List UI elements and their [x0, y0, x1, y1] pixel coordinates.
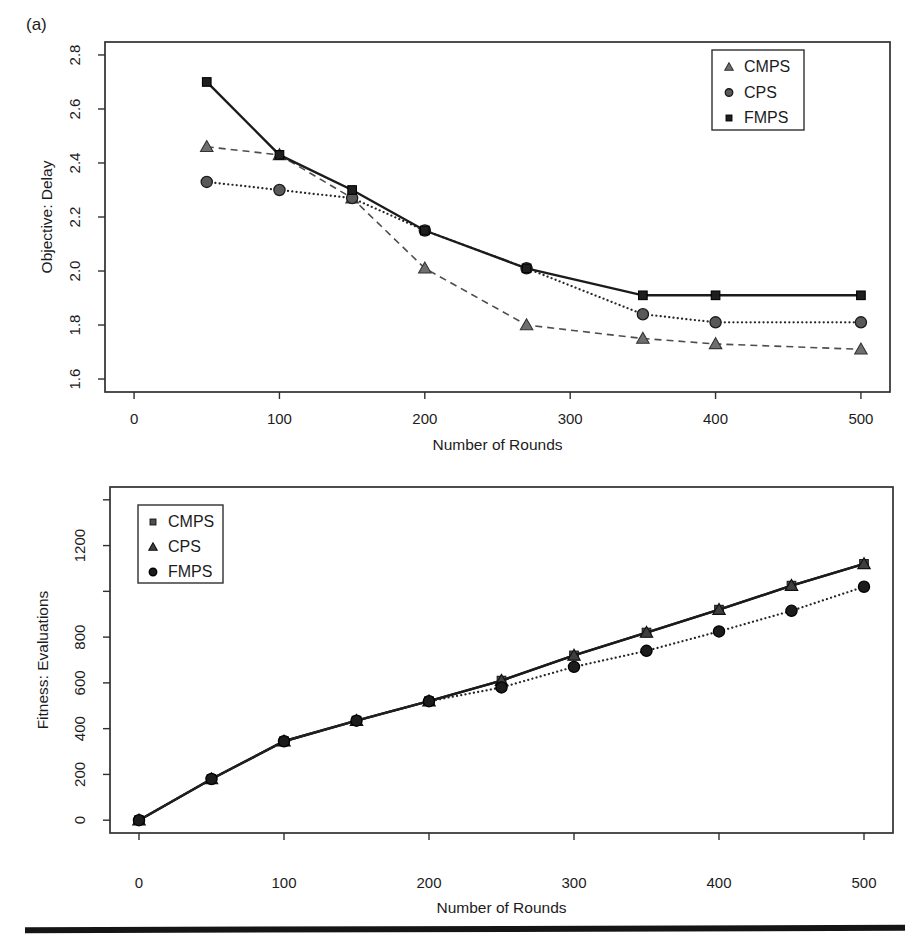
x-tick-label: 400	[703, 410, 728, 427]
x-tick-label: 0	[135, 874, 143, 891]
x-axis-title: Number of Rounds	[432, 436, 562, 453]
legend: CMPSCPSFMPS	[138, 505, 223, 583]
legend: CMPSCPSFMPS	[712, 50, 804, 130]
y-tick-label: 600	[71, 670, 88, 695]
x-tick-label: 100	[267, 410, 292, 427]
x-axis-title: Number of Rounds	[436, 899, 566, 916]
y-tick-label: 2.2	[66, 207, 83, 228]
y-tick-label: 0	[71, 816, 88, 824]
series-FMPS	[133, 581, 869, 826]
y-tick-label: 200	[71, 762, 88, 787]
x-tick-label: 400	[706, 874, 731, 891]
figure: (a) 01002003004005001.61.82.02.22.42.62.…	[0, 0, 916, 947]
x-tick-label: 0	[130, 410, 138, 427]
y-axis-title: Objective: Delay	[38, 160, 55, 273]
fitness-evaluations-chart: 010020030040050002004006008001200Number …	[0, 460, 916, 947]
y-tick-label: 2.4	[66, 153, 83, 174]
y-tick-label: 2.0	[66, 261, 83, 282]
y-tick-label: 400	[71, 716, 88, 741]
x-tick-label: 500	[851, 874, 876, 891]
y-tick-label: 2.6	[66, 99, 83, 120]
legend-label: FMPS	[744, 109, 788, 126]
x-tick-label: 100	[271, 874, 296, 891]
y-axis-title: Fitness: Evaluations	[34, 590, 51, 729]
x-tick-label: 300	[558, 410, 583, 427]
x-tick-label: 300	[561, 874, 586, 891]
x-tick-label: 200	[416, 874, 441, 891]
y-tick-label: 800	[71, 625, 88, 650]
x-tick-label: 500	[848, 410, 873, 427]
legend-label: CMPS	[168, 513, 214, 530]
legend-label: CMPS	[744, 58, 790, 75]
y-tick-label: 2.8	[66, 45, 83, 66]
y-tick-label: 1.8	[66, 315, 83, 336]
y-tick-label: 1.6	[66, 369, 83, 390]
objective-delay-chart: 01002003004005001.61.82.02.22.42.62.8Num…	[0, 0, 916, 460]
x-tick-label: 200	[412, 410, 437, 427]
legend-label: CPS	[168, 538, 201, 555]
series-CPS	[201, 176, 866, 328]
legend-label: FMPS	[168, 563, 212, 580]
legend-label: CPS	[744, 84, 777, 101]
y-tick-label: 1200	[71, 529, 88, 562]
